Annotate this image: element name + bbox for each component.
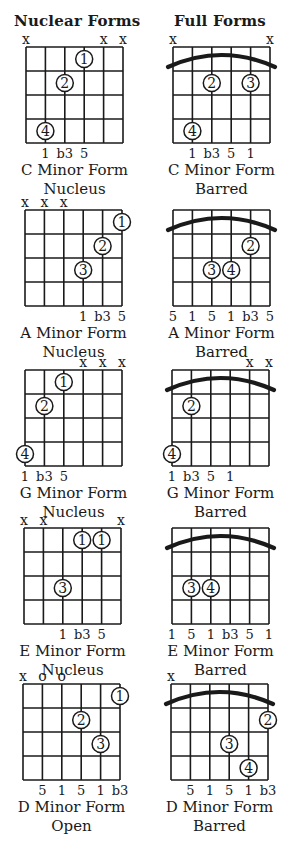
svg-text:4: 4 — [21, 446, 30, 462]
svg-text:4: 4 — [206, 580, 215, 596]
interval-label: 5 — [97, 627, 105, 642]
interval-label: b3 — [94, 309, 111, 324]
barre-arc-icon — [166, 692, 273, 704]
interval-label: 1 — [188, 146, 196, 161]
muted-string-icon: x — [22, 31, 30, 47]
chord-caption-a-minor-nucleus: A Minor FormNucleus — [4, 324, 144, 362]
interval-label: 5 — [80, 146, 88, 161]
interval-label: b3 — [57, 146, 74, 161]
interval-label: 1 — [96, 783, 104, 798]
finger-dot: 1 — [112, 688, 129, 705]
interval-label: 5 — [169, 309, 177, 324]
finger-dot: 2 — [242, 238, 259, 255]
chord-subtitle: Nucleus — [4, 503, 144, 522]
muted-string-icon: x — [100, 31, 108, 47]
svg-text:4: 4 — [227, 262, 236, 278]
finger-dot: 4 — [17, 446, 34, 463]
svg-text:1: 1 — [97, 532, 106, 548]
svg-text:4: 4 — [168, 446, 177, 462]
svg-text:3: 3 — [225, 736, 234, 752]
svg-text:2: 2 — [207, 75, 216, 91]
interval-label: 1 — [168, 627, 176, 642]
interval-label: 5 — [60, 469, 68, 484]
interval-label: b3 — [204, 146, 221, 161]
interval-label: b3 — [260, 783, 277, 798]
chord-title: D Minor Form — [2, 798, 142, 817]
interval-label: 1 — [227, 309, 235, 324]
svg-text:4: 4 — [188, 123, 197, 139]
interval-label: 1 — [21, 469, 29, 484]
interval-label: 5 — [245, 627, 253, 642]
chord-caption-e-minor-nucleus: E Minor FormNucleus — [3, 642, 143, 680]
interval-label: 5 — [227, 146, 235, 161]
finger-dot: 1 — [55, 374, 72, 391]
finger-dot: 2 — [73, 712, 90, 729]
interval-label: 1 — [41, 146, 49, 161]
finger-dot: 1 — [76, 51, 93, 68]
svg-text:3: 3 — [187, 580, 196, 596]
svg-text:3: 3 — [246, 75, 255, 91]
interval-label: b3 — [112, 783, 129, 798]
muted-string-icon: x — [119, 31, 127, 47]
chord-caption-d-minor-barred: D Minor FormBarred — [150, 798, 290, 836]
muted-string-icon: x — [266, 31, 274, 47]
finger-dot: 3 — [92, 736, 109, 753]
interval-label: 5 — [208, 309, 216, 324]
interval-label: b3 — [74, 627, 91, 642]
chord-title: E Minor Form — [3, 642, 143, 661]
svg-text:1: 1 — [116, 688, 125, 704]
chord-diagrams-canvas: xxx1241b35xx2341b351xxx1231b352345151b35… — [0, 0, 295, 865]
interval-label: 5 — [225, 783, 233, 798]
barre-arc-icon — [167, 536, 274, 548]
finger-dot: 2 — [203, 75, 220, 92]
chord-diagram-e-minor-barred: 34151b351 — [167, 528, 274, 642]
chord-diagram-d-minor-barred: x2345151b3 — [166, 668, 277, 798]
chord-title: C Minor Form — [152, 161, 292, 180]
interval-label: 5 — [186, 783, 194, 798]
svg-text:1: 1 — [78, 532, 87, 548]
chord-caption-e-minor-barred: E Minor FormBarred — [151, 642, 291, 680]
svg-text:2: 2 — [77, 712, 86, 728]
chord-subtitle: Nucleus — [3, 661, 143, 680]
chord-caption-d-minor-open: D Minor FormOpen — [2, 798, 142, 836]
interval-label: 1 — [59, 627, 67, 642]
interval-label: b3 — [242, 309, 259, 324]
finger-dot: 2 — [56, 75, 73, 92]
finger-dot: 2 — [36, 398, 53, 415]
chord-title: G Minor Form — [151, 484, 291, 503]
chord-title: D Minor Form — [150, 798, 290, 817]
chord-diagram-a-minor-barred: 2345151b35 — [168, 210, 275, 324]
finger-dot: 1 — [93, 532, 110, 549]
chord-diagram-g-minor-barred: xx241b351 — [164, 354, 275, 484]
barre-arc-icon — [168, 55, 275, 67]
finger-dot: 3 — [203, 262, 220, 279]
chord-title: E Minor Form — [151, 642, 291, 661]
finger-dot: 4 — [164, 446, 181, 463]
interval-label: 1 — [246, 146, 254, 161]
chord-subtitle: Barred — [151, 661, 291, 680]
chord-diagram-g-minor-nucleus: xxx1241b35 — [17, 354, 127, 484]
interval-label: 5 — [38, 783, 46, 798]
finger-dot: 2 — [94, 238, 111, 255]
svg-text:4: 4 — [41, 123, 50, 139]
interval-label: 1 — [79, 309, 87, 324]
interval-label: 1 — [265, 627, 273, 642]
svg-text:4: 4 — [244, 760, 253, 776]
chord-subtitle: Nucleus — [4, 343, 144, 362]
svg-text:2: 2 — [264, 712, 273, 728]
interval-label: 1 — [244, 783, 252, 798]
chord-caption-g-minor-nucleus: G Minor FormNucleus — [4, 484, 144, 522]
svg-text:1: 1 — [118, 214, 127, 230]
chord-title: C Minor Form — [5, 161, 145, 180]
interval-label: b3 — [36, 469, 53, 484]
interval-label: 1 — [206, 783, 214, 798]
interval-label: b3 — [183, 469, 200, 484]
finger-dot: 3 — [75, 262, 92, 279]
finger-dot: 3 — [221, 736, 238, 753]
interval-label: 5 — [118, 309, 126, 324]
chord-subtitle: Barred — [152, 343, 292, 362]
finger-dot: 2 — [183, 398, 200, 415]
finger-dot: 4 — [223, 262, 240, 279]
interval-label: 5 — [187, 627, 195, 642]
finger-dot: 4 — [184, 123, 201, 140]
